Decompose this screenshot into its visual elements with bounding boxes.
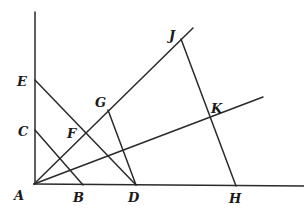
point-label-b: B	[72, 190, 84, 205]
point-label-j: J	[166, 28, 176, 43]
point-label-k: K	[210, 101, 223, 116]
point-label-g: G	[95, 95, 106, 110]
point-label-h: H	[228, 191, 242, 206]
segment-J-H	[181, 39, 236, 186]
point-label-e: E	[16, 74, 28, 89]
point-label-c: C	[18, 124, 29, 139]
point-label-d: D	[127, 190, 140, 205]
point-label-f: F	[66, 126, 77, 141]
horizontal-axis	[34, 184, 304, 186]
segment-E-D	[35, 80, 136, 185]
geometry-diagram: ABCDEFGHJK	[0, 0, 304, 215]
point-label-a: A	[12, 188, 24, 203]
